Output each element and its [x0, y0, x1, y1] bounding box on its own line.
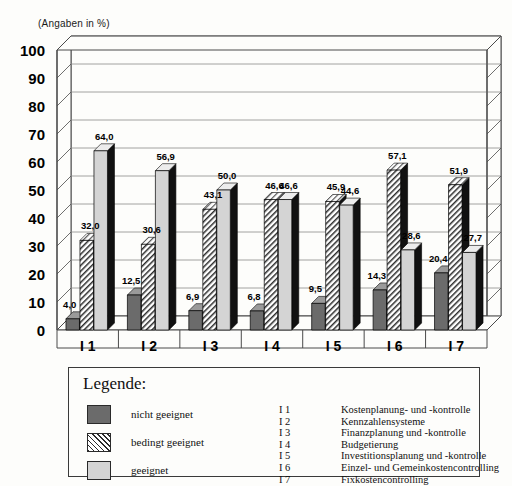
legend-name: Investitionsplanung und -kontrolle [341, 450, 499, 462]
bar-value-label: 6,8 [247, 291, 260, 302]
bar [189, 311, 203, 330]
legend-code: I 4 [279, 439, 290, 451]
x-axis-tick-label: I 2 [141, 338, 157, 354]
legend-item-label: geeignet [131, 464, 168, 476]
bar-value-label: 30,6 [142, 224, 161, 235]
bar [278, 200, 292, 330]
y-axis-tick-label: 80 [5, 99, 45, 114]
x-axis-tick-label: I 7 [448, 338, 464, 354]
legend-name: Finanzplanung und -kontrolle [341, 427, 499, 439]
y-axis-tick-label: 0 [5, 323, 45, 338]
y-axis-tick-label: 50 [5, 183, 45, 198]
legend-swatch-1 [87, 405, 111, 424]
legend-title: Legende: [83, 374, 146, 394]
x-axis-tick-label: I 4 [264, 338, 280, 354]
legend-name: Kennzahlensysteme [341, 416, 499, 428]
bar-value-label: 51,9 [450, 165, 469, 176]
bar [401, 250, 415, 330]
y-axis-tick-label: 70 [5, 127, 45, 142]
bar [155, 171, 169, 330]
legend-code: I 3 [279, 427, 290, 439]
bar [326, 201, 340, 330]
x-axis-tick-label: I 5 [326, 338, 342, 354]
legend-item: nicht geeignet [87, 402, 204, 426]
legend-code: I 1 [279, 404, 290, 416]
bar [312, 303, 326, 330]
bar-chart: 1009080706050403020100 I 1I 2I 3I 4I 5I … [0, 0, 512, 360]
bar [373, 290, 387, 330]
bar-value-label: 27,7 [464, 232, 483, 243]
bar-value-label: 9,5 [309, 283, 322, 294]
y-axis-tick-label: 10 [5, 295, 45, 310]
bar-side [107, 144, 114, 330]
legend-code: I 6 [279, 462, 290, 474]
y-axis-tick-label: 30 [5, 239, 45, 254]
legend-name: Kostenplanung- und -kontrolle [341, 404, 499, 416]
x-axis-tick-label: I 6 [387, 338, 403, 354]
bar [217, 190, 231, 330]
bar [250, 311, 264, 330]
bar-side [415, 243, 422, 330]
bar [127, 295, 140, 330]
bar-value-label: 57,1 [388, 150, 407, 161]
bar-value-label: 4,0 [63, 299, 76, 310]
bar-value-label: 50,0 [218, 170, 237, 181]
bar-value-label: 28,6 [402, 230, 421, 241]
legend-code: I 5 [279, 450, 290, 462]
y-axis-tick-label: 60 [5, 155, 45, 170]
chart-plot-area [0, 0, 512, 360]
bar [387, 170, 401, 330]
x-axis-tick-label: I 1 [80, 338, 96, 354]
legend-code: I 2 [279, 416, 290, 428]
bar-value-label: 20,4 [429, 253, 448, 264]
legend: Legende: nicht geeignetbedingt geeignetg… [68, 367, 480, 477]
y-axis-tick-label: 40 [5, 211, 45, 226]
legend-name: Fixkostencontrolling [341, 474, 499, 486]
legend-swatch-2 [87, 433, 111, 452]
y-axis-tick-label: 20 [5, 267, 45, 282]
bar [80, 240, 94, 330]
bar-side [476, 245, 483, 330]
legend-name: Einzel- und Gemeinkostencontrolling [341, 462, 499, 474]
legend-swatches: nicht geeignetbedingt geeignetgeeignet [87, 402, 204, 486]
bar [435, 273, 449, 330]
legend-item-label: bedingt geeignet [131, 436, 204, 448]
bar-value-label: 43,1 [204, 189, 223, 200]
bar-value-label: 6,9 [186, 291, 199, 302]
bar-side [292, 193, 299, 330]
legend-name: Budgetierung [341, 439, 499, 451]
legend-code: I 7 [279, 474, 290, 486]
legend-item: bedingt geeignet [87, 430, 204, 454]
bar-value-label: 44,6 [341, 185, 360, 196]
bar [66, 319, 80, 330]
bar-value-label: 14,3 [368, 270, 387, 281]
bar [340, 205, 354, 330]
legend-item: geeignet [87, 458, 204, 482]
legend-code-column: I 1I 2I 3I 4I 5I 6I 7 [279, 404, 290, 485]
bar [463, 252, 477, 330]
y-axis-tick-label: 100 [5, 43, 45, 58]
bar-value-label: 46,6 [279, 180, 298, 191]
y-axis-tick-label: 90 [5, 71, 45, 86]
bar-value-label: 12,5 [122, 275, 141, 286]
legend-item-label: nicht geeignet [131, 408, 193, 420]
y-axis: 1009080706050403020100 [0, 0, 45, 360]
x-axis-tick-label: I 3 [203, 338, 219, 354]
legend-name-column: Kostenplanung- und -kontrolleKennzahlens… [341, 404, 499, 485]
bar-side [230, 183, 237, 330]
legend-swatch-3 [87, 461, 111, 480]
bar [94, 151, 108, 330]
bar [141, 244, 155, 330]
bar [264, 200, 278, 330]
bar-value-label: 64,0 [95, 131, 114, 142]
bar-value-label: 32,0 [81, 220, 100, 231]
bar-side [353, 198, 360, 330]
bar-side [169, 164, 176, 330]
bar [203, 209, 217, 330]
bar-value-label: 56,9 [156, 151, 175, 162]
bar [449, 185, 463, 330]
